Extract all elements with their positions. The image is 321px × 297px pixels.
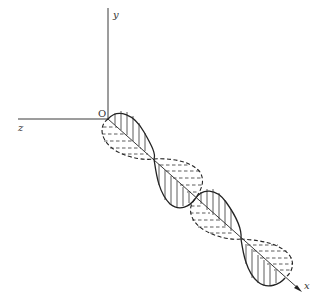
electric-field-lobe-1 [108,111,155,159]
x-axis-label: x [304,280,310,291]
em-wave-diagram: y z O x [0,0,321,297]
magnetic-field-lobe-3 [190,199,241,239]
x-axis [108,119,300,290]
origin-label: O [98,108,106,119]
magnetic-field-lobe-2 [154,159,203,199]
z-axis-label: z [17,122,24,133]
electric-field-lobe-4 [241,239,285,286]
y-axis-label: y [112,9,119,20]
electric-field-lobe-2 [154,159,195,208]
magnetic-field-lobe-4 [241,239,293,278]
